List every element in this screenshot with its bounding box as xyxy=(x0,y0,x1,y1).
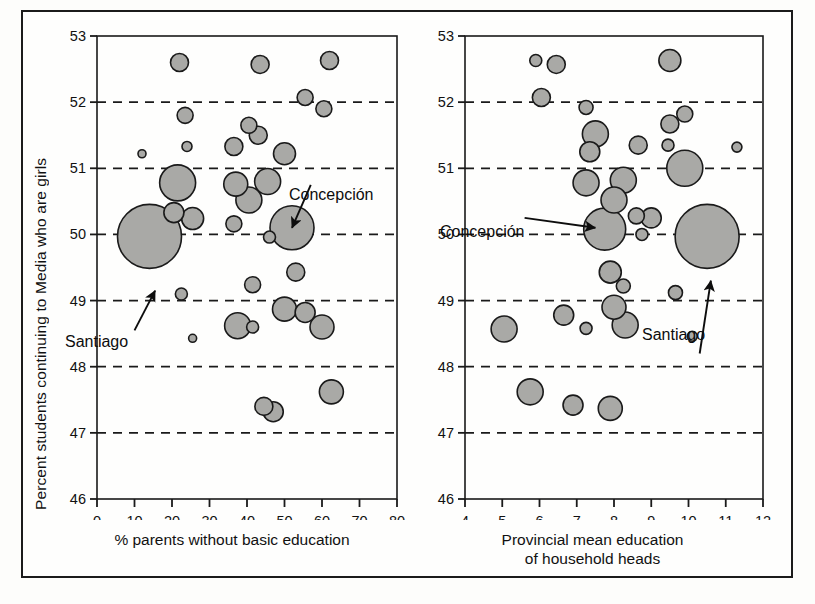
x-tick-label: 60 xyxy=(314,513,330,520)
data-bubble xyxy=(616,279,630,293)
data-bubble xyxy=(164,203,184,223)
data-bubble xyxy=(601,187,627,213)
data-bubble xyxy=(226,216,242,232)
data-bubble xyxy=(547,55,565,73)
x-tick-label: 6 xyxy=(535,513,543,520)
data-bubble xyxy=(584,208,626,250)
data-bubble xyxy=(321,51,339,69)
y-tick-label: 50 xyxy=(70,226,86,242)
data-bubble xyxy=(629,136,647,154)
left-x-axis-label-text: % parents without basic education xyxy=(52,530,412,549)
panel-left: 464748495051525301020304050607080 % pare… xyxy=(52,20,412,520)
left-x-axis-label: % parents without basic education xyxy=(52,530,412,549)
data-bubble xyxy=(138,150,146,158)
y-tick-label: 49 xyxy=(70,293,86,309)
data-bubble xyxy=(662,139,674,151)
y-tick-label: 46 xyxy=(438,491,454,507)
right-x-axis-label-line1: Provincial mean education xyxy=(420,530,765,549)
data-bubble xyxy=(316,101,332,117)
x-tick-label: 0 xyxy=(93,513,101,520)
y-tick-label: 51 xyxy=(70,160,86,176)
y-tick-label: 52 xyxy=(438,94,454,110)
figure-canvas: Percent students continuing to Media who… xyxy=(0,0,815,604)
data-bubble xyxy=(247,321,259,333)
right-x-axis-label: Provincial mean education of household h… xyxy=(420,530,765,568)
y-tick-label: 51 xyxy=(438,160,454,176)
annotation-arrow-santiago xyxy=(135,291,156,331)
data-bubble xyxy=(295,302,315,322)
x-tick-label: 70 xyxy=(351,513,367,520)
data-bubble xyxy=(241,117,257,133)
y-axis-label: Percent students continuing to Media who… xyxy=(32,40,50,510)
data-bubble xyxy=(264,231,276,243)
left-scatter-plot: 464748495051525301020304050607080 xyxy=(52,20,412,520)
data-bubble xyxy=(517,379,543,405)
right-annotation-concepcion: Concepción xyxy=(440,223,525,241)
data-bubble xyxy=(225,137,243,155)
x-tick-label: 50 xyxy=(276,513,292,520)
data-bubble xyxy=(659,49,681,71)
data-bubble xyxy=(532,89,550,107)
data-bubble xyxy=(175,288,187,300)
data-bubble xyxy=(319,380,343,404)
x-tick-label: 40 xyxy=(239,513,255,520)
x-tick-label: 20 xyxy=(164,513,180,520)
data-bubble xyxy=(171,53,189,71)
data-bubble xyxy=(251,55,269,73)
right-scatter-plot: 4647484950515253456789101112 xyxy=(420,20,785,520)
data-bubble xyxy=(636,228,648,240)
x-tick-label: 12 xyxy=(755,513,771,520)
y-tick-label: 53 xyxy=(438,28,454,44)
data-bubble xyxy=(224,172,248,196)
data-bubble xyxy=(160,165,196,201)
y-tick-label: 47 xyxy=(70,425,86,441)
data-bubble xyxy=(668,286,682,300)
data-bubble xyxy=(677,106,693,122)
data-bubble xyxy=(573,170,599,196)
data-bubble xyxy=(667,150,703,186)
x-tick-label: 80 xyxy=(389,513,405,520)
data-bubble xyxy=(675,204,739,268)
x-tick-label: 9 xyxy=(647,513,655,520)
data-bubble xyxy=(661,115,679,133)
left-annotation-concepcion: Concepción xyxy=(289,186,374,204)
data-bubble xyxy=(491,316,517,342)
y-tick-label: 49 xyxy=(438,293,454,309)
data-bubble xyxy=(599,261,621,283)
y-tick-label: 48 xyxy=(70,359,86,375)
data-bubble xyxy=(602,295,626,319)
data-bubble xyxy=(245,277,261,293)
x-tick-label: 10 xyxy=(126,513,142,520)
data-bubble xyxy=(579,100,593,114)
y-tick-label: 52 xyxy=(70,94,86,110)
data-bubble xyxy=(177,107,193,123)
x-tick-label: 11 xyxy=(718,513,733,520)
data-bubble xyxy=(530,54,542,66)
x-tick-label: 30 xyxy=(201,513,217,520)
right-annotation-santiago: Santiago xyxy=(642,326,705,344)
x-tick-label: 5 xyxy=(498,513,506,520)
x-tick-label: 10 xyxy=(680,513,696,520)
y-tick-label: 46 xyxy=(70,491,86,507)
x-tick-label: 8 xyxy=(610,513,618,520)
data-bubble xyxy=(580,142,600,162)
data-bubble xyxy=(273,297,297,321)
data-bubble xyxy=(255,397,273,415)
data-bubble xyxy=(297,90,313,106)
data-bubble xyxy=(287,263,305,281)
data-bubble xyxy=(554,305,574,325)
y-tick-label: 53 xyxy=(70,28,86,44)
data-bubble xyxy=(628,208,644,224)
x-tick-label: 7 xyxy=(573,513,581,520)
data-bubble xyxy=(598,396,622,420)
x-tick-label: 4 xyxy=(461,513,469,520)
panel-right: 4647484950515253456789101112 Provincial … xyxy=(420,20,785,520)
right-x-axis-label-line2: of household heads xyxy=(420,549,765,568)
data-bubble xyxy=(732,142,742,152)
data-bubble xyxy=(274,143,296,165)
data-bubble xyxy=(182,141,192,151)
data-bubble xyxy=(182,208,204,230)
left-annotation-santiago: Santiago xyxy=(65,333,128,351)
data-bubble xyxy=(580,322,592,334)
data-bubble xyxy=(189,334,197,342)
